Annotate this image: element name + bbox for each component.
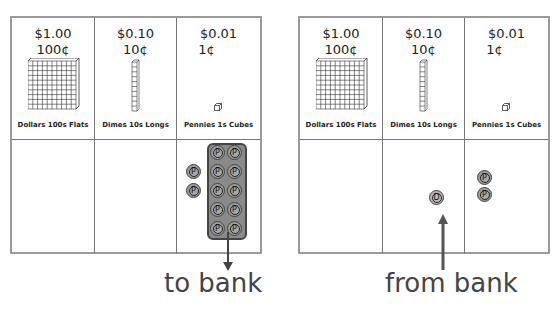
coin-letter: P — [213, 148, 223, 158]
ones-cube-icon — [214, 103, 222, 111]
place-value-board-right: $1.00 100¢ Dollars 100s Flats $0.10 10¢ … — [298, 16, 550, 254]
coin-letter: P — [189, 186, 199, 196]
penny-coin[interactable]: P — [227, 164, 242, 179]
penny-coin[interactable]: P — [186, 164, 201, 179]
top-clip — [0, 0, 558, 12]
coin-letter: P — [230, 167, 240, 177]
column-label: Pennies 1s Cubes — [177, 121, 260, 129]
coin-letter: P — [213, 205, 223, 215]
pennies-coin-cell: P P — [465, 140, 548, 254]
dimes-coin-cell — [95, 140, 177, 254]
from-bank-caption: from bank — [385, 268, 518, 298]
from-bank-arrow — [437, 214, 449, 270]
coin-letter: P — [213, 167, 223, 177]
tens-long-icon — [419, 59, 429, 113]
value-label: $1.00 — [12, 26, 94, 41]
penny-coin[interactable]: P — [210, 164, 225, 179]
dime-coin[interactable]: D — [429, 190, 444, 205]
column-label: Dimes 10s Longs — [383, 121, 464, 129]
coin-letter: P — [480, 190, 490, 200]
penny-coin[interactable]: P — [210, 202, 225, 217]
hundreds-flat-icon — [28, 58, 80, 112]
dollars-header-cell: $1.00 100¢ Dollars 100s Flats — [300, 18, 383, 140]
coin-letter: P — [230, 205, 240, 215]
value-label: $0.10 — [95, 26, 176, 41]
penny-coin[interactable]: P — [227, 202, 242, 217]
dollars-coin-cell — [300, 140, 383, 254]
cents-label: 1¢ — [453, 42, 536, 57]
dollars-coin-cell — [12, 140, 95, 254]
coin-letter: D — [432, 193, 442, 203]
penny-coin[interactable]: P — [210, 145, 225, 160]
value-label: $0.01 — [465, 26, 548, 41]
penny-coin[interactable]: P — [477, 187, 492, 202]
value-label: $1.00 — [300, 26, 382, 41]
coin-letter: P — [189, 167, 199, 177]
place-value-board-left: $1.00 100¢ Dollars 100s Flats $0.10 10¢ … — [10, 16, 262, 254]
value-label: $0.01 — [177, 26, 260, 41]
pennies-header-cell: $0.01 1¢ Pennies 1s Cubes — [177, 18, 260, 140]
penny-coin[interactable]: P — [227, 183, 242, 198]
coin-letter: P — [213, 224, 223, 234]
coin-letter: P — [230, 148, 240, 158]
pennies-header-cell: $0.01 1¢ Pennies 1s Cubes — [465, 18, 548, 140]
column-label: Pennies 1s Cubes — [465, 121, 548, 129]
dimes-header-cell: $0.10 10¢ Dimes 10s Longs — [95, 18, 177, 140]
cents-label: 10¢ — [383, 42, 464, 57]
cents-label: 1¢ — [165, 42, 248, 57]
cents-label: 100¢ — [12, 42, 94, 57]
penny-coin[interactable]: P — [210, 183, 225, 198]
coin-letter: P — [480, 173, 490, 183]
to-bank-caption: to bank — [164, 268, 262, 298]
dimes-coin-cell: D — [383, 140, 465, 254]
tens-long-icon — [131, 59, 141, 113]
column-label: Dollars 100s Flats — [300, 121, 382, 129]
to-bank-arrow — [222, 232, 234, 272]
dollars-header-cell: $1.00 100¢ Dollars 100s Flats — [12, 18, 95, 140]
column-label: Dollars 100s Flats — [12, 121, 94, 129]
coin-letter: P — [230, 186, 240, 196]
value-label: $0.10 — [383, 26, 464, 41]
dimes-header-cell: $0.10 10¢ Dimes 10s Longs — [383, 18, 465, 140]
penny-coin[interactable]: P — [186, 183, 201, 198]
ones-cube-icon — [502, 103, 510, 111]
cents-label: 100¢ — [300, 42, 382, 57]
pennies-coin-cell: PPPPPPPPPPPP — [177, 140, 260, 254]
hundreds-flat-icon — [316, 58, 368, 112]
penny-coin[interactable]: P — [227, 145, 242, 160]
coin-letter: P — [213, 186, 223, 196]
cents-label: 10¢ — [95, 42, 176, 57]
column-label: Dimes 10s Longs — [95, 121, 176, 129]
penny-coin[interactable]: P — [477, 170, 492, 185]
